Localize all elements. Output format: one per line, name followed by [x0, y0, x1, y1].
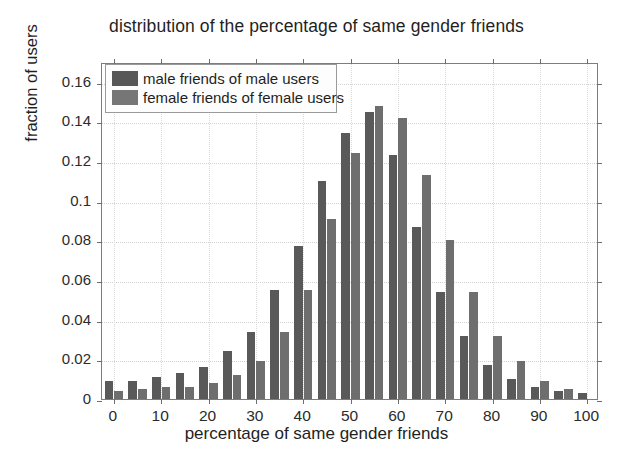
y-tick-label: 0.1: [0, 192, 91, 209]
x-tick-mark: [256, 399, 257, 404]
y-tick-mark: [597, 84, 602, 85]
bar: [469, 292, 478, 399]
x-tick-mark: [587, 59, 588, 64]
bar: [318, 181, 327, 399]
legend-swatch-male: [112, 71, 138, 86]
legend-label-female: female friends of female users: [143, 89, 344, 106]
x-tick-mark: [398, 59, 399, 64]
bar: [398, 118, 407, 399]
x-tick-mark: [540, 399, 541, 404]
gridline-horizontal: [102, 123, 597, 124]
gridline-vertical: [161, 64, 162, 399]
y-tick-label: 0.02: [0, 350, 91, 367]
x-tick-mark: [540, 59, 541, 64]
plot-area: [101, 63, 598, 400]
y-tick-mark: [97, 163, 102, 164]
bar: [422, 175, 431, 399]
chart-title: distribution of the percentage of same g…: [0, 16, 633, 37]
y-tick-mark: [597, 242, 602, 243]
legend-swatch-female: [112, 90, 138, 105]
x-tick-mark: [303, 399, 304, 404]
bar: [540, 381, 549, 399]
bar: [105, 381, 114, 399]
bar: [341, 133, 350, 399]
x-tick-mark: [209, 399, 210, 404]
bar: [327, 219, 336, 399]
y-tick-mark: [597, 163, 602, 164]
bar: [493, 336, 502, 399]
legend-item-male: male friends of male users: [112, 69, 330, 88]
bar: [375, 106, 384, 399]
bar: [294, 246, 303, 399]
y-tick-mark: [97, 401, 102, 402]
bar: [138, 389, 147, 399]
x-tick-mark: [351, 399, 352, 404]
bar: [436, 292, 445, 399]
y-tick-mark: [97, 203, 102, 204]
x-tick-mark: [398, 399, 399, 404]
y-tick-mark: [97, 242, 102, 243]
bar: [185, 387, 194, 399]
gridline-vertical: [114, 64, 115, 399]
gridline-vertical: [256, 64, 257, 399]
bar: [199, 367, 208, 399]
bar: [270, 290, 279, 399]
gridline-vertical: [209, 64, 210, 399]
y-tick-mark: [97, 322, 102, 323]
x-tick-label: 100: [556, 407, 616, 425]
y-tick-label: 0.16: [0, 73, 91, 90]
bar: [128, 381, 137, 399]
bar: [578, 393, 587, 399]
bar: [531, 387, 540, 399]
legend-item-female: female friends of female users: [112, 88, 330, 107]
y-tick-mark: [597, 282, 602, 283]
bar: [209, 383, 218, 399]
gridline-vertical: [587, 64, 588, 399]
y-tick-mark: [97, 282, 102, 283]
y-tick-mark: [97, 84, 102, 85]
legend-label-male: male friends of male users: [143, 70, 319, 87]
x-tick-mark: [445, 399, 446, 404]
bar: [389, 155, 398, 399]
chart-figure: distribution of the percentage of same g…: [0, 0, 633, 460]
bar: [114, 391, 123, 399]
y-tick-mark: [597, 361, 602, 362]
bar: [517, 361, 526, 399]
y-tick-label: 0.12: [0, 152, 91, 169]
bar: [256, 361, 265, 399]
y-tick-label: 0: [0, 390, 91, 407]
x-axis-label: percentage of same gender friends: [0, 424, 633, 444]
bar: [247, 332, 256, 399]
x-tick-mark: [493, 59, 494, 64]
x-tick-mark: [161, 399, 162, 404]
bar: [564, 389, 573, 399]
gridline-vertical: [540, 64, 541, 399]
bar: [223, 351, 232, 399]
bar: [152, 377, 161, 399]
y-tick-mark: [597, 322, 602, 323]
y-tick-label: 0.14: [0, 112, 91, 129]
y-axis-label: fraction of users: [22, 0, 41, 213]
bar: [162, 387, 171, 399]
y-tick-mark: [597, 123, 602, 124]
chart-legend: male friends of male users female friend…: [105, 64, 337, 113]
bar: [483, 365, 492, 399]
y-tick-mark: [597, 401, 602, 402]
bar: [412, 227, 421, 399]
x-tick-mark: [114, 399, 115, 404]
bar: [280, 332, 289, 399]
bar: [233, 375, 242, 399]
bar: [554, 391, 563, 399]
y-tick-label: 0.04: [0, 311, 91, 328]
x-tick-mark: [587, 399, 588, 404]
bar: [365, 112, 374, 399]
y-tick-mark: [97, 361, 102, 362]
plot-inner: [102, 64, 597, 399]
x-tick-mark: [445, 59, 446, 64]
bar: [446, 240, 455, 399]
y-tick-mark: [597, 203, 602, 204]
bar: [304, 290, 313, 399]
x-tick-mark: [351, 59, 352, 64]
y-tick-label: 0.06: [0, 271, 91, 288]
y-tick-label: 0.08: [0, 231, 91, 248]
